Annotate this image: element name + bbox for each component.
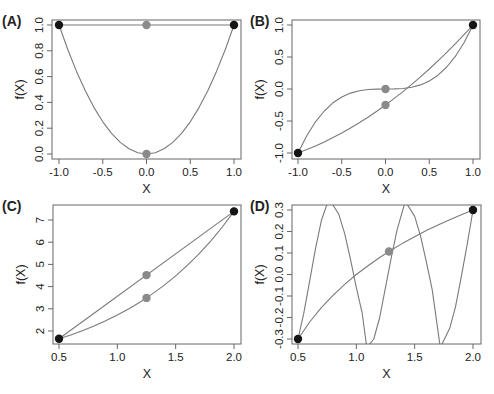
midpoint-marker bbox=[142, 294, 150, 302]
x-tick-label: 1.0 bbox=[226, 166, 242, 178]
x-tick-label: 2.0 bbox=[226, 351, 242, 363]
y-tick-label: 7 bbox=[34, 217, 46, 223]
midpoint-marker bbox=[142, 271, 150, 279]
endpoint-marker bbox=[55, 21, 63, 29]
endpoint-marker bbox=[469, 21, 477, 29]
x-axis-title: X bbox=[142, 182, 151, 196]
x-tick-label: 1.5 bbox=[407, 351, 423, 363]
y-tick-label: -0.5 bbox=[273, 111, 285, 131]
x-axis-title: X bbox=[382, 182, 391, 196]
endpoint-marker bbox=[294, 335, 302, 343]
midpoint-marker bbox=[142, 21, 150, 29]
panel-label: (A) bbox=[2, 13, 21, 29]
y-tick-label: 0.8 bbox=[33, 43, 45, 59]
endpoint-marker bbox=[230, 21, 238, 29]
y-tick-label: 1.0 bbox=[33, 17, 45, 33]
x-tick-label: 1.5 bbox=[168, 351, 184, 363]
panel-c: (C)0.51.01.52.0234567Xf(X) bbox=[2, 198, 242, 381]
x-tick-label: 1.0 bbox=[348, 351, 364, 363]
y-axis-title: f(X) bbox=[253, 79, 267, 99]
y-axis-title: f(X) bbox=[253, 264, 267, 284]
x-tick-label: -1.0 bbox=[288, 166, 308, 178]
y-axis-title: f(X) bbox=[14, 264, 28, 284]
y-axis-title: f(X) bbox=[13, 79, 27, 99]
midpoint-marker bbox=[385, 247, 393, 255]
x-tick-label: 0.5 bbox=[51, 351, 67, 363]
endpoint-marker bbox=[469, 206, 477, 214]
y-tick-label: 0.2 bbox=[33, 120, 45, 136]
midpoint-marker bbox=[381, 101, 389, 109]
panel-label: (D) bbox=[250, 198, 269, 214]
plot-box bbox=[52, 20, 241, 159]
x-tick-label: 0.5 bbox=[182, 166, 198, 178]
x-tick-label: 0.5 bbox=[290, 351, 306, 363]
y-tick-label: 0.6 bbox=[33, 69, 45, 85]
series-line-1 bbox=[298, 210, 473, 339]
y-tick-label: 0.5 bbox=[273, 49, 285, 65]
x-tick-label: 1.0 bbox=[109, 351, 125, 363]
panel-d: (D)0.51.01.52.0-0.3-0.2-0.10.00.10.20.3X… bbox=[250, 198, 481, 381]
endpoint-marker bbox=[230, 207, 238, 215]
x-tick-label: 0.0 bbox=[378, 166, 394, 178]
y-tick-label: 0.0 bbox=[273, 267, 285, 283]
midpoint-marker bbox=[142, 150, 150, 158]
y-tick-label: 4 bbox=[34, 283, 46, 290]
series-line-2 bbox=[298, 201, 473, 347]
endpoint-marker bbox=[55, 335, 63, 343]
y-tick-label: 0.0 bbox=[273, 81, 285, 97]
y-tick-label: 1.0 bbox=[273, 17, 285, 33]
x-tick-label: 1.0 bbox=[465, 166, 481, 178]
panel-label: (B) bbox=[250, 13, 269, 29]
panel-label: (C) bbox=[2, 198, 21, 214]
y-tick-label: 0.4 bbox=[33, 94, 45, 111]
y-tick-label: -1.0 bbox=[273, 143, 285, 163]
y-tick-label: 3 bbox=[34, 306, 46, 312]
panel-a: (A)-1.0-0.50.00.51.00.00.20.40.60.81.0Xf… bbox=[2, 13, 242, 196]
y-tick-label: 0.3 bbox=[273, 202, 285, 218]
x-axis-title: X bbox=[143, 367, 152, 381]
x-tick-label: 0.5 bbox=[421, 166, 437, 178]
midpoint-marker bbox=[381, 85, 389, 93]
y-tick-label: -0.3 bbox=[273, 329, 285, 349]
x-tick-label: -0.5 bbox=[93, 166, 113, 178]
y-tick-label: 6 bbox=[34, 239, 46, 245]
x-tick-label: -1.0 bbox=[49, 166, 69, 178]
x-tick-label: -0.5 bbox=[332, 166, 352, 178]
panel-b: (B)-1.0-0.50.00.51.0-1.0-0.50.00.51.0Xf(… bbox=[250, 13, 481, 196]
figure: (A)-1.0-0.50.00.51.00.00.20.40.60.81.0Xf… bbox=[0, 0, 494, 394]
series-line-1 bbox=[59, 25, 234, 154]
y-tick-label: 5 bbox=[34, 261, 46, 267]
y-tick-label: 2 bbox=[34, 328, 46, 334]
y-tick-label: 0.2 bbox=[273, 224, 285, 240]
x-axis-title: X bbox=[382, 367, 391, 381]
x-tick-label: 0.0 bbox=[139, 166, 155, 178]
y-tick-label: 0.0 bbox=[33, 146, 45, 162]
y-tick-label: -0.1 bbox=[273, 286, 285, 306]
y-tick-label: -0.2 bbox=[273, 308, 285, 328]
x-tick-label: 2.0 bbox=[465, 351, 481, 363]
y-tick-label: 0.1 bbox=[273, 245, 285, 261]
endpoint-marker bbox=[294, 149, 302, 157]
